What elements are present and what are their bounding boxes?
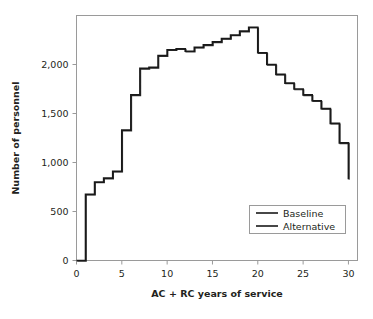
x-tick-label: 20 [252,268,264,279]
x-tick-label: 5 [119,268,125,279]
x-tick-label: 30 [342,268,354,279]
y-tick-label: 1,000 [41,157,68,168]
y-tick-label: 2,000 [41,59,68,70]
x-tick-label: 10 [161,268,173,279]
legend-label-baseline: Baseline [283,208,323,219]
x-tick-label: 15 [206,268,218,279]
x-tick-label: 0 [73,268,79,279]
x-tick-label: 25 [297,268,309,279]
y-tick-label: 1,500 [41,108,68,119]
legend-label-alternative: Alternative [283,221,335,232]
chart-legend: Baseline Alternative [250,206,346,234]
y-tick-label: 0 [62,255,68,266]
x-axis-title: AC + RC years of service [151,288,282,299]
y-axis-title: Number of personnel [10,81,21,194]
chart-figure: 05001,0001,5002,000 051015202530 Number … [0,0,373,319]
personnel-step-chart: 05001,0001,5002,000 051015202530 Number … [0,0,373,319]
y-tick-label: 500 [50,206,68,217]
